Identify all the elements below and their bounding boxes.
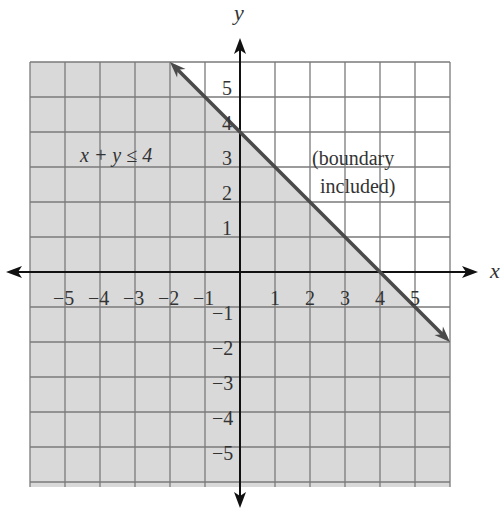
x-tick-label: 2 <box>305 287 315 309</box>
x-tick-label: 5 <box>410 287 420 309</box>
x-tick-label: −5 <box>53 287 74 309</box>
y-tick-label: −3 <box>212 372 233 394</box>
boundary-note-line1: (boundary <box>312 147 394 170</box>
x-tick-label: −3 <box>123 287 144 309</box>
inequality-label: x + y ≤ 4 <box>79 144 152 167</box>
y-tick-label: −4 <box>212 407 233 429</box>
y-tick-label: −2 <box>212 337 233 359</box>
coordinate-plane: −5−4−3−2−11234554321−1−2−3−4−5 y x x + y… <box>0 0 503 526</box>
x-tick-label: −2 <box>158 287 179 309</box>
x-tick-label: 1 <box>270 287 280 309</box>
x-tick-label: 3 <box>340 287 350 309</box>
x-axis-label: x <box>489 258 500 283</box>
x-tick-label: −4 <box>88 287 109 309</box>
y-tick-label: 2 <box>222 182 232 204</box>
y-tick-label: −1 <box>212 302 233 324</box>
y-tick-label: 3 <box>222 147 232 169</box>
y-tick-label: 5 <box>222 77 232 99</box>
boundary-note-line2: included) <box>320 175 396 198</box>
x-tick-label: 4 <box>375 287 385 309</box>
y-tick-label: 1 <box>222 217 232 239</box>
y-axis-label: y <box>232 0 244 25</box>
y-tick-label: 4 <box>222 112 232 134</box>
y-tick-label: −5 <box>212 442 233 464</box>
